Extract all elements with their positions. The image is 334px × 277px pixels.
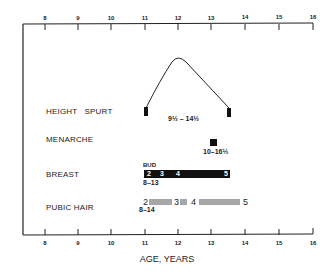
row-label-pubic-hair: PUBIC HAIR xyxy=(46,203,94,212)
tick-label: 13 xyxy=(208,240,215,246)
tick-label: 13 xyxy=(208,15,215,21)
tick-label: 15 xyxy=(276,240,283,246)
breast-bud-label: BUD xyxy=(143,162,156,168)
tick-label: 9 xyxy=(76,240,79,246)
height-range-label: 9½ – 14½ xyxy=(168,115,199,122)
x-axis-title: AGE, YEARS xyxy=(0,254,334,264)
tick-label: 10 xyxy=(108,15,115,21)
tick-label: 8 xyxy=(43,15,46,21)
tick-label: 14 xyxy=(242,14,249,20)
tick-label: 14 xyxy=(242,240,249,246)
tick-label: 15 xyxy=(276,14,283,20)
tick-label: 8 xyxy=(43,240,46,246)
row-label-height-spurt: HEIGHT SPURT xyxy=(46,107,113,116)
pubic-stage: 3 xyxy=(174,197,179,207)
tick-label: 11 xyxy=(142,240,148,246)
breast-stage: 2 xyxy=(147,170,151,177)
pubic-range-label: 8–14 xyxy=(139,206,155,213)
tick-label: 12 xyxy=(175,15,182,21)
pubic-stage: 4 xyxy=(191,197,196,207)
tick-label: 10 xyxy=(108,240,115,246)
breast-stage: 5 xyxy=(224,170,228,177)
tick-label: 9 xyxy=(76,15,79,21)
menarche-range-label: 10–16½ xyxy=(203,148,228,155)
breast-stage: 3 xyxy=(160,170,164,177)
pubic-stage: 2 xyxy=(143,197,148,207)
tick-label: 16 xyxy=(310,240,317,246)
tick-label: 12 xyxy=(175,240,182,246)
row-label-menarche: MENARCHE xyxy=(46,135,93,144)
tick-label: 11 xyxy=(142,15,148,21)
pubic-stage: 5 xyxy=(243,197,248,207)
row-label-breast: BREAST xyxy=(46,170,79,179)
tick-label: 16 xyxy=(310,14,317,20)
breast-stage: 4 xyxy=(176,170,180,177)
breast-range-label: 8–13 xyxy=(143,179,159,186)
